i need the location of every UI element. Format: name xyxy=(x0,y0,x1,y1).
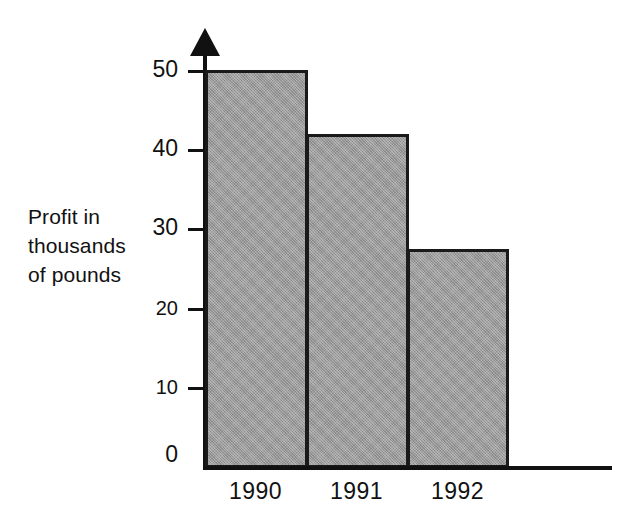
bar-1991 xyxy=(306,134,409,468)
x-axis-label-1990: 1990 xyxy=(205,478,306,504)
bars-layer xyxy=(0,0,642,528)
bar-1990 xyxy=(205,70,308,468)
x-axis-label-1991: 1991 xyxy=(306,478,407,504)
x-axis-label-1992: 1992 xyxy=(407,478,508,504)
bar-1992 xyxy=(407,249,509,468)
x-axis-line xyxy=(203,466,612,470)
bar-chart: Profit in thousands of pounds 50 40 30 2… xyxy=(0,0,642,528)
